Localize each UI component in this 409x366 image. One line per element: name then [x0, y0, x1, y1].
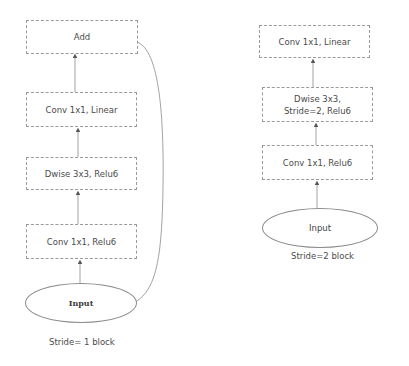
- input-label: Input: [69, 298, 94, 308]
- conv1x1-linear-node: Conv 1x1, Linear: [26, 92, 137, 127]
- node-label: Conv 1x1, Linear: [46, 104, 118, 116]
- node-label: Add: [74, 31, 90, 43]
- dwise3x3-relu6-node: Dwise 3x3, Relu6: [26, 157, 137, 190]
- input-label: Input: [309, 223, 331, 233]
- conv1x1-linear-node-s2: Conv 1x1, Linear: [259, 25, 370, 58]
- node-label: Dwise 3x3, Relu6: [45, 168, 118, 180]
- add-node: Add: [26, 20, 138, 54]
- conv1x1-relu6-node: Conv 1x1, Relu6: [26, 224, 137, 259]
- node-label: Conv 1x1, Relu6: [283, 157, 352, 169]
- skip-connection-curve: [135, 42, 163, 302]
- node-label: Conv 1x1, Linear: [279, 36, 351, 48]
- stride1-caption: Stride= 1 block: [49, 337, 115, 347]
- input-node: Input: [25, 283, 137, 323]
- input-node-s2: Input: [262, 208, 378, 248]
- stride2-arrows: [313, 61, 317, 208]
- diagram-canvas: Add Conv 1x1, Linear Dwise 3x3, Relu6 Co…: [0, 0, 409, 366]
- dwise3x3-stride2-relu6-node: Dwise 3x3, Stride=2, Relu6: [262, 87, 373, 122]
- conv1x1-relu6-node-s2: Conv 1x1, Relu6: [262, 145, 373, 180]
- node-label: Conv 1x1, Relu6: [47, 236, 116, 248]
- stride2-caption: Stride=2 block: [291, 251, 354, 261]
- node-label: Dwise 3x3, Stride=2, Relu6: [277, 93, 358, 117]
